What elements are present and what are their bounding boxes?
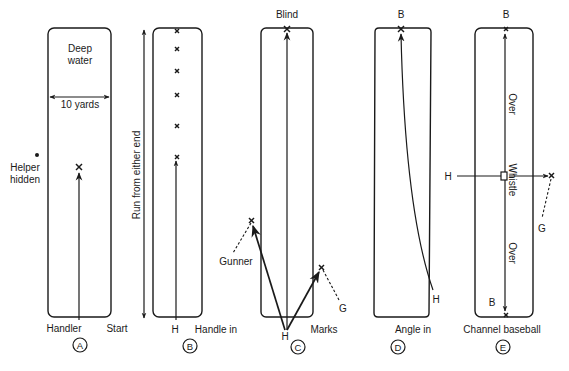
handler-label: Handler <box>46 323 82 334</box>
handler-h-label: H <box>444 171 451 182</box>
g-x-icon <box>549 173 554 178</box>
panel-b: Run from either end H Handle in B <box>131 28 237 353</box>
gunner-label: Gunner <box>219 256 253 267</box>
mark-x-icons <box>175 29 179 159</box>
panel-d: B H Angle in D <box>374 9 440 354</box>
b-top-label: B <box>503 9 510 20</box>
g-x-icon <box>319 265 324 270</box>
g-label: G <box>538 223 546 234</box>
badge-a: A <box>77 340 84 351</box>
g-leader-line <box>542 179 551 218</box>
angle-in-path-arrow <box>401 34 433 290</box>
channel-baseball-label: Channel baseball <box>463 324 540 335</box>
mark-path-left-arrow <box>253 226 285 330</box>
panel-a: Deep water 10 yards Helper hidden Handle… <box>10 28 128 352</box>
badge-c: C <box>295 342 302 353</box>
whistle-label: Whistle <box>507 164 518 197</box>
helper-dot-icon <box>35 153 39 157</box>
mark-x-icon <box>76 164 82 170</box>
handler-h-label: H <box>432 294 439 305</box>
run-either-end-label: Run from either end <box>131 131 142 219</box>
width-label: 10 yards <box>61 99 99 110</box>
drill-diagram: Deep water 10 yards Helper hidden Handle… <box>0 0 569 371</box>
badge-b: B <box>187 341 193 352</box>
over-top-label: Over <box>507 93 518 115</box>
angle-in-label: Angle in <box>395 324 431 335</box>
badge-d: D <box>395 342 402 353</box>
mark-path-right-arrow <box>287 272 319 330</box>
hidden-label: hidden <box>10 174 40 185</box>
b-bottom-label: B <box>489 297 496 308</box>
whistle-square-icon <box>501 172 507 180</box>
blind-x-icon <box>284 26 290 32</box>
g-leader-line <box>323 270 339 300</box>
water-label: water <box>67 55 93 66</box>
gunner-leader-line <box>233 223 251 253</box>
b-x-icon <box>398 26 404 32</box>
start-label: Start <box>106 323 127 334</box>
helper-label: Helper <box>10 162 40 173</box>
marks-label: Marks <box>310 324 337 335</box>
badge-e: E <box>500 342 506 353</box>
handle-in-label: Handle in <box>195 324 237 335</box>
handler-h-label: H <box>171 324 178 335</box>
blind-label: Blind <box>276 9 298 20</box>
over-bottom-label: Over <box>507 242 518 264</box>
panel-c: Blind Gunner G H Marks C <box>219 9 347 354</box>
b-top-label: B <box>398 9 405 20</box>
handler-h-label: H <box>281 331 288 342</box>
gunner-x-icon <box>249 218 254 223</box>
g-label: G <box>339 303 347 314</box>
deep-label: Deep <box>68 43 92 54</box>
panel-e: B Over Whistle Over H G B Channel baseba… <box>444 9 554 354</box>
